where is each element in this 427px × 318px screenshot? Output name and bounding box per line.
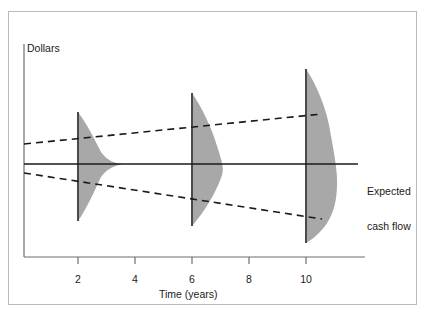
upper-dispersion-bound-line (24, 114, 322, 144)
expected-cash-flow-annotation-line-2: cash flow (367, 221, 411, 233)
x-axis-tick-label-4: 4 (120, 273, 150, 285)
x-axis-label: Time (years) (159, 289, 218, 301)
lower-dispersion-bound-line (24, 173, 322, 219)
cash-flow-dispersion-plot (9, 12, 416, 304)
cash-flow-distribution-year-2 (78, 112, 123, 221)
expected-cash-flow-annotation-line-1: Expected (367, 186, 411, 198)
x-axis-tick-label-2: 2 (63, 273, 93, 285)
y-axis-label: Dollars (27, 43, 60, 55)
x-axis-tick-label-6: 6 (177, 273, 207, 285)
expected-cash-flow-annotation: Expected cash flow (367, 162, 411, 256)
figure-frame: Dollars 2 4 6 8 10 Time (years) Expected… (8, 11, 417, 305)
x-axis-tick-label-10: 10 (291, 273, 321, 285)
figure-root: Dollars 2 4 6 8 10 Time (years) Expected… (0, 0, 427, 318)
cash-flow-distribution-year-6 (192, 93, 223, 226)
x-axis-tick-label-8: 8 (234, 273, 264, 285)
